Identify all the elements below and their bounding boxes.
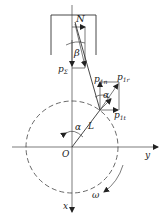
omega-arrow: [104, 165, 123, 192]
label-p1t: p1t: [114, 110, 127, 121]
label-n: N: [75, 13, 86, 24]
label-l: L: [87, 121, 94, 131]
label-x: x: [63, 201, 68, 211]
crank-mechanism-diagram: N β pΣ p1n p1r p1t α α L O y x ω: [0, 0, 166, 219]
label-omega: ω: [92, 190, 100, 200]
label-beta: β: [73, 47, 80, 58]
label-p-sigma: pΣ: [58, 64, 69, 75]
label-p1n: p1n: [94, 74, 108, 85]
beta-arc: [66, 42, 85, 45]
force-n-rect: [72, 24, 85, 68]
label-alpha-origin: α: [75, 122, 81, 132]
label-y: y: [144, 150, 151, 160]
label-p1r: p1r: [117, 72, 131, 83]
label-o: O: [62, 149, 70, 159]
label-alpha-top: α: [103, 90, 109, 100]
